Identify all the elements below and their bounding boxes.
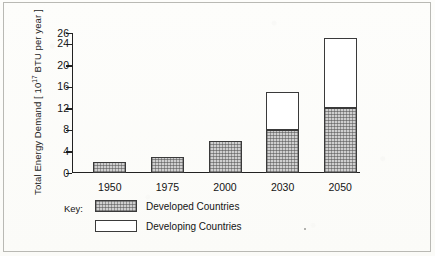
- bar-segment-2050-developed[interactable]: [324, 108, 357, 173]
- x-tick-label-2050: 2050: [329, 181, 352, 193]
- y-axis-title-main: Total Energy Demand [ 10: [32, 83, 43, 195]
- legend-item-developing: Developing Countries: [95, 220, 242, 232]
- legend-swatch-developing: [95, 220, 137, 232]
- bar-segment-1950-developed[interactable]: [93, 162, 126, 173]
- bar-2050[interactable]: 2050: [324, 38, 357, 173]
- y-tick-label: 0: [63, 167, 69, 179]
- y-tick-label: 26: [57, 27, 69, 39]
- y-axis-line: [72, 33, 73, 173]
- scan-speck: [304, 228, 306, 230]
- y-axis-title-exponent: 17: [31, 75, 38, 82]
- bar-2000[interactable]: 2000: [209, 141, 242, 173]
- y-tick-label: 20: [57, 59, 69, 71]
- legend-title: Key:: [64, 203, 83, 214]
- bar-2030[interactable]: 2030: [266, 92, 299, 173]
- legend-item-developed: Developed Countries: [95, 200, 239, 212]
- x-tick-label-2030: 2030: [271, 181, 294, 193]
- bar-1950[interactable]: 1950: [93, 162, 126, 173]
- legend-label-developing: Developing Countries: [146, 221, 242, 232]
- bar-segment-2000-developed[interactable]: [209, 141, 242, 173]
- y-tick-label: 4: [63, 145, 69, 157]
- x-tick-label-2000: 2000: [213, 181, 236, 193]
- y-axis-title-suffix: BTU per year ]: [32, 9, 43, 75]
- y-axis-title: Total Energy Demand [ 1017 BTU per year …: [31, 7, 43, 197]
- legend-label-developed: Developed Countries: [146, 201, 239, 212]
- y-tick-label: 12: [57, 102, 69, 114]
- x-tick-label-1975: 1975: [156, 181, 179, 193]
- bar-segment-2030-developed[interactable]: [266, 130, 299, 173]
- x-tick-label-1950: 1950: [98, 181, 121, 193]
- y-tick-label: 24: [57, 37, 69, 49]
- y-tick-label: 8: [63, 123, 69, 135]
- bar-segment-1975-developed[interactable]: [151, 157, 184, 173]
- bar-1975[interactable]: 1975: [151, 157, 184, 173]
- energy-demand-chart-figure: Total Energy Demand [ 1017 BTU per year …: [0, 0, 435, 256]
- bar-segment-2050-developing[interactable]: [324, 38, 357, 108]
- plot-area: 0481216202426 19501975200020302050: [72, 24, 360, 176]
- legend-swatch-developed: [95, 200, 137, 212]
- bar-segment-2030-developing[interactable]: [266, 92, 299, 130]
- y-tick-label: 16: [57, 80, 69, 92]
